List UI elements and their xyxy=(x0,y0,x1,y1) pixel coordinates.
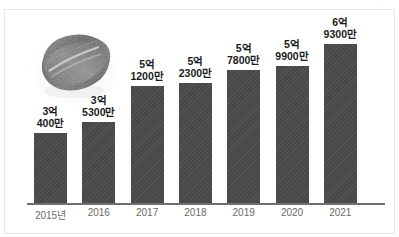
axis-baseline xyxy=(27,203,385,205)
bar-2021[interactable] xyxy=(324,44,357,203)
bar-value-line2: 5300만 xyxy=(82,107,115,119)
bar-value-line2: 9300만 xyxy=(324,29,357,41)
bar-value-line1: 5억 xyxy=(227,43,260,55)
bar-value-label: 5억1200만 xyxy=(130,59,163,82)
bar-2016[interactable] xyxy=(82,122,115,203)
bar-value-line2: 400만 xyxy=(37,118,65,130)
bar-2018[interactable] xyxy=(179,83,212,203)
bar-value-line1: 5억 xyxy=(130,59,163,71)
bar-value-line2: 7800만 xyxy=(227,55,260,67)
bar-2017[interactable] xyxy=(131,86,164,203)
bar-value-label: 5억2300만 xyxy=(179,56,212,79)
bar-value-line2: 2300만 xyxy=(179,68,212,80)
bar-value-line1: 5억 xyxy=(275,39,308,51)
watermark-text: · · · · xyxy=(377,0,395,6)
bar-chart-plot-area: 3억400만3억5300만5억1200만5억2300만5억7800만5억9900… xyxy=(5,10,394,233)
bar-2019[interactable] xyxy=(227,70,260,203)
bar-value-label: 5억7800만 xyxy=(227,43,260,66)
bar-value-label: 6억9300만 xyxy=(324,17,357,40)
bar-2020[interactable] xyxy=(276,66,309,203)
bar-value-line2: 1200만 xyxy=(130,71,163,83)
bar-value-line2: 9900만 xyxy=(275,51,308,63)
bar-value-line1: 3억 xyxy=(37,106,65,118)
category-label-2021: 2021 xyxy=(310,207,370,218)
bar-value-label: 3억5300만 xyxy=(82,95,115,118)
bar-value-label: 3억400만 xyxy=(37,106,65,129)
bar-2015년[interactable] xyxy=(34,133,67,203)
bar-value-line1: 6억 xyxy=(324,17,357,29)
bar-value-label: 5억9900만 xyxy=(275,39,308,62)
bar-value-line1: 5억 xyxy=(179,56,212,68)
bar-value-line1: 3억 xyxy=(82,95,115,107)
chart-frame: 3억400만3억5300만5억1200만5억2300만5억7800만5억9900… xyxy=(4,9,395,234)
